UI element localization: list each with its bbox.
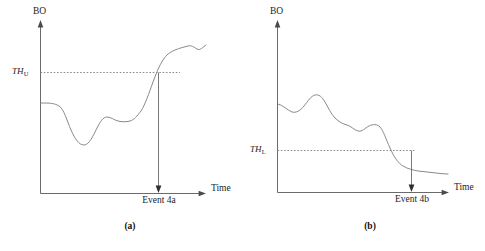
panel-b-event-label: Event 4b — [382, 195, 442, 205]
panel-a-y-axis-label: BO — [33, 7, 46, 17]
panel-a-caption: (a) — [100, 222, 160, 232]
panel-a-event-arrowhead — [156, 185, 162, 193]
panel-b-y-axis-label: BO — [270, 7, 283, 17]
panel-b-threshold-label-sub: L — [262, 148, 266, 155]
panel-a-threshold-label: THU — [12, 67, 28, 76]
panel-a-x-axis-label: Time — [211, 184, 231, 194]
panel-a-x-axis-arrowhead — [199, 191, 206, 197]
panel-b-x-axis-label: Time — [454, 183, 474, 193]
panel-b-y-axis-arrowhead — [275, 20, 281, 27]
panel-b-signal-curve — [278, 95, 448, 174]
panel-a-graphics — [38, 20, 206, 196]
panel-a-y-axis-arrowhead — [38, 20, 44, 27]
figure-canvas — [0, 0, 485, 251]
panel-b-threshold-label-main: TH — [250, 144, 262, 154]
panel-a-event-label: Event 4a — [129, 196, 189, 206]
panel-a-threshold-label-main: TH — [12, 66, 24, 76]
panel-b-caption: (b) — [340, 222, 400, 232]
panel-a-threshold-label-sub: U — [24, 70, 29, 77]
panel-b-graphics — [275, 20, 449, 195]
panel-a-signal-curve — [41, 45, 206, 145]
panel-b-threshold-label: THL — [250, 145, 266, 154]
panel-b-event-arrowhead — [409, 184, 415, 192]
figure-root: BO Time THU Event 4a (a) BO Time THL Eve… — [0, 0, 485, 251]
panel-b-x-axis-arrowhead — [442, 190, 449, 196]
